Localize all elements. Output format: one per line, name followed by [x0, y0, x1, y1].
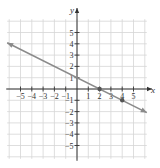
x-axis-label: x — [150, 85, 155, 95]
data-point — [120, 98, 124, 102]
x-tick-label: 1 — [86, 92, 90, 101]
coordinate-plane: −5−4−3−2−112345−5−4−3−2−112345 x y — [0, 0, 160, 168]
x-tick-label: 5 — [132, 92, 136, 101]
y-tick-label: −5 — [65, 142, 74, 151]
y-tick-label: 2 — [70, 62, 74, 71]
y-tick-label: −2 — [65, 108, 74, 117]
axes — [6, 8, 152, 161]
y-axis-arrow-icon — [75, 8, 79, 13]
x-tick-label: 2 — [98, 92, 102, 101]
x-tick-label: −2 — [50, 92, 59, 101]
y-tick-label: −3 — [65, 119, 74, 128]
y-axis-label: y — [69, 5, 74, 15]
x-tick-label: −4 — [28, 92, 37, 101]
y-tick-label: 3 — [70, 51, 74, 60]
x-tick-label: −3 — [39, 92, 48, 101]
x-tick-label: −5 — [16, 92, 25, 101]
y-tick-label: 4 — [70, 40, 74, 49]
y-tick-label: −4 — [65, 130, 74, 139]
y-tick-label: 5 — [70, 29, 74, 38]
data-point — [97, 87, 101, 91]
y-tick-label: −1 — [65, 96, 74, 105]
